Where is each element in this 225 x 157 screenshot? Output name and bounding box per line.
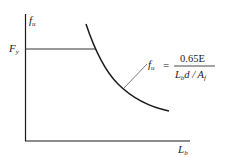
- formula-denominator: Lbd / Af: [174, 69, 207, 82]
- yield-stress-label: Fy: [8, 42, 20, 56]
- formula: fu = 0.65E Lbd / Af: [148, 53, 215, 82]
- formula-leader-line: [124, 64, 147, 88]
- formula-numerator: 0.65E: [180, 53, 205, 64]
- x-axis-label: Lb: [177, 143, 188, 157]
- formula-equals: =: [163, 59, 169, 71]
- y-axis-label: fu: [29, 14, 36, 28]
- lateral-buckling-diagram: fu Fy Lb fu = 0.65E Lbd / Af: [0, 0, 225, 157]
- formula-lhs: fu: [148, 58, 155, 72]
- buckling-curve: [86, 24, 169, 111]
